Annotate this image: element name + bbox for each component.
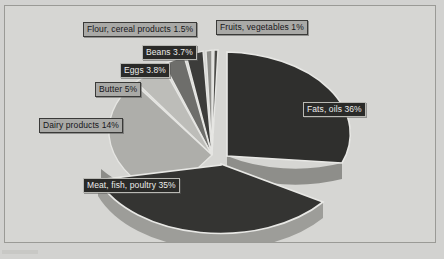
slice-label-fats-oils: Fats, oils 36% bbox=[303, 102, 366, 117]
slice-label-meat-fish-poultry: Meat, fish, poultry 35% bbox=[83, 178, 180, 193]
slice-label-fruits-vegetables: Fruits, vegetables 1% bbox=[216, 20, 308, 35]
plot-area-frame: Flour, cereal products 1.5% Fruits, vege… bbox=[4, 5, 436, 243]
slice-label-flour-cereal-products: Flour, cereal products 1.5% bbox=[83, 22, 197, 37]
slice-top-fruits-vegetables bbox=[212, 50, 218, 155]
pie-chart-figure: Flour, cereal products 1.5% Fruits, vege… bbox=[0, 0, 444, 259]
slice-label-beans: Beans 3.7% bbox=[142, 45, 197, 60]
slice-label-butter: Butter 5% bbox=[95, 82, 141, 97]
slice-label-eggs: Eggs 3.8% bbox=[120, 63, 170, 78]
page-edge-artifact bbox=[2, 250, 38, 254]
slice-label-dairy-products: Dairy products 14% bbox=[39, 118, 123, 133]
